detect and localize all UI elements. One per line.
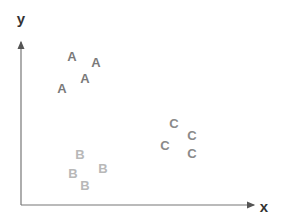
cluster-c-point: C	[187, 129, 196, 142]
cluster-b-point: B	[98, 162, 107, 175]
cluster-c-point: C	[187, 147, 196, 160]
cluster-c-point: C	[160, 139, 169, 152]
cluster-a-point: A	[57, 82, 66, 95]
cluster-a-point: A	[91, 56, 100, 69]
cluster-a-point: A	[67, 50, 76, 63]
y-axis-label: y	[17, 11, 25, 26]
axes-graphic	[0, 0, 284, 222]
scatter-diagram: y x AAAABBBBCCCC	[0, 0, 284, 222]
cluster-b-point: B	[75, 148, 84, 161]
cluster-a-point: A	[80, 72, 89, 85]
x-axis-label: x	[260, 199, 268, 214]
cluster-b-point: B	[68, 167, 77, 180]
cluster-b-point: B	[80, 179, 89, 192]
cluster-c-point: C	[169, 117, 178, 130]
